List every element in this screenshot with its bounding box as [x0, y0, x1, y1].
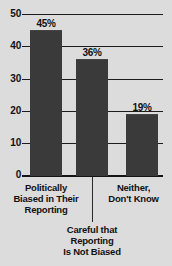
- bar-politically-biased[interactable]: [30, 30, 62, 176]
- y-tick-label-40: 40: [1, 41, 21, 51]
- category-label-line: Reporting: [30, 235, 154, 246]
- value-label-careful-not-biased: 36%: [76, 48, 108, 58]
- category-label-line: Is Not Biased: [30, 246, 154, 257]
- category-label-line: Politically: [0, 182, 92, 193]
- y-tick-label-20: 20: [1, 106, 21, 116]
- bar-chart: 50 40 30 20 10 0 45% 36% 19% Politically…: [0, 0, 172, 266]
- category-label-line: Biased in Their: [0, 193, 92, 204]
- category-label-line: Careful that: [30, 224, 154, 235]
- category-label-careful-not-biased: Careful that Reporting Is Not Biased: [30, 224, 154, 257]
- category-connector-line: [92, 177, 93, 222]
- category-label-politically-biased: Politically Biased in Their Reporting: [0, 182, 92, 215]
- bar-neither-dont-know[interactable]: [126, 114, 158, 176]
- value-label-neither-dont-know: 19%: [126, 103, 158, 113]
- category-label-neither-dont-know: Neither, Don't Know: [95, 182, 172, 204]
- plot-area: 50 40 30 20 10 0 45% 36% 19%: [0, 0, 172, 180]
- y-tick-label-10: 10: [1, 138, 21, 148]
- bar-careful-not-biased[interactable]: [76, 59, 108, 176]
- y-tick-label-50: 50: [1, 9, 21, 19]
- y-tick-label-30: 30: [1, 74, 21, 84]
- value-label-politically-biased: 45%: [30, 19, 62, 29]
- gridline-50: [22, 14, 163, 15]
- y-tick-label-0: 0: [1, 170, 21, 180]
- category-label-line: Don't Know: [95, 193, 172, 204]
- category-label-line: Reporting: [0, 204, 92, 215]
- category-label-line: Neither,: [95, 182, 172, 193]
